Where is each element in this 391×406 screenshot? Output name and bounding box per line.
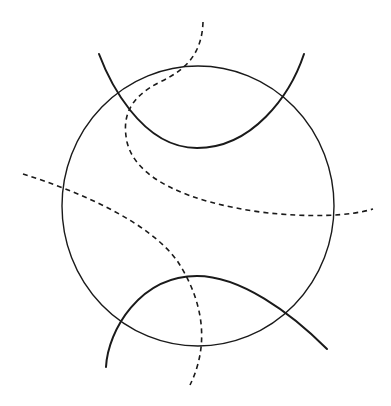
top-solid-arc: [99, 54, 304, 148]
top-dashed-curve: [125, 22, 373, 216]
bottom-solid-arch: [106, 276, 327, 367]
geometric-diagram: [0, 0, 391, 406]
